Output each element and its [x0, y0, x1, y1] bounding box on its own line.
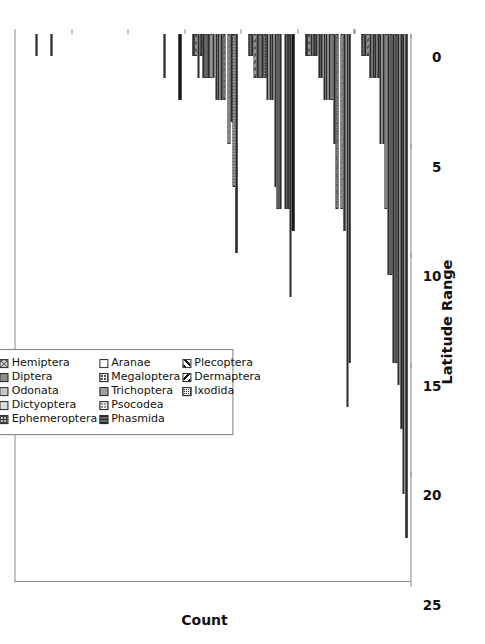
legend-label: Ephemeroptera	[11, 413, 97, 426]
bar	[369, 34, 371, 78]
bar	[289, 34, 291, 297]
legend-label: Dermaptera	[194, 371, 260, 384]
bar	[320, 34, 322, 78]
legend-item[interactable]: Phasmida	[99, 413, 180, 426]
legend-label: Psocodea	[111, 399, 163, 412]
bar	[276, 34, 278, 209]
bar	[394, 34, 396, 363]
bar	[382, 34, 384, 144]
bar	[335, 34, 337, 209]
legend-swatch-icon	[99, 373, 108, 382]
bar	[222, 34, 224, 100]
legend-swatch-icon	[99, 401, 108, 410]
bar	[325, 34, 327, 100]
bar	[315, 34, 317, 56]
bar	[35, 34, 37, 56]
legend-swatch-icon	[182, 359, 191, 368]
bar	[274, 34, 276, 187]
legend-swatch-icon	[0, 387, 8, 396]
bar	[384, 34, 386, 209]
legend-label: Diptera	[11, 371, 52, 384]
bar	[374, 34, 376, 78]
legend-swatch-icon	[182, 373, 191, 382]
count-tick-mark	[410, 472, 411, 477]
legend-item[interactable]: Ephemeroptera	[0, 413, 97, 426]
bar	[348, 34, 350, 363]
legend-label: Plecoptera	[194, 357, 253, 370]
y-axis-title: Count	[174, 612, 234, 628]
legend-swatch-icon	[0, 401, 8, 410]
bar	[305, 34, 307, 56]
legend-swatch-icon	[182, 387, 191, 396]
legend-item[interactable]: Plecoptera	[182, 357, 260, 370]
bar	[392, 34, 394, 363]
bar	[402, 34, 404, 494]
latitude-tick-mark	[71, 29, 72, 34]
bar	[323, 34, 325, 100]
bar	[312, 34, 314, 56]
count-tick-mark	[410, 363, 411, 368]
count-tick-mark	[410, 34, 411, 39]
chart-legend: ColeopteraOrtopteraHymenopteraLepidopter…	[0, 349, 233, 435]
legend-item[interactable]: Hemiptera	[0, 357, 97, 370]
legend-label: Hemiptera	[11, 357, 69, 370]
legend-item[interactable]: Trichoptera	[99, 385, 180, 398]
bar	[361, 34, 363, 56]
legend-label: Trichoptera	[111, 385, 173, 398]
count-tick-label: 0	[407, 49, 441, 65]
legend-item[interactable]: Ixodida	[182, 385, 260, 398]
bar	[291, 34, 293, 231]
bar	[197, 34, 199, 78]
bar	[232, 34, 234, 187]
bar	[307, 34, 309, 56]
legend-swatch-icon	[99, 387, 108, 396]
bar	[163, 34, 165, 78]
legend-item[interactable]: Megaloptera	[99, 371, 180, 384]
legend-item[interactable]: Diptera	[0, 371, 97, 384]
legend-label: Phasmida	[111, 413, 165, 426]
bar	[269, 34, 271, 100]
legend-grid: ColeopteraOrtopteraHymenopteraLepidopter…	[0, 357, 224, 426]
legend-label: Megaloptera	[111, 371, 180, 384]
bar	[248, 34, 250, 56]
bar	[192, 34, 194, 56]
count-tick-mark	[410, 144, 411, 149]
bar	[405, 34, 407, 538]
bar	[379, 34, 381, 144]
bar	[286, 34, 288, 209]
bar	[366, 34, 368, 56]
bar	[235, 34, 237, 253]
bar	[266, 34, 268, 100]
bar	[199, 34, 201, 56]
legend-swatch-icon	[0, 359, 8, 368]
latitude-tick-mark	[127, 29, 128, 34]
count-tick-label: 20	[407, 487, 441, 503]
bar	[372, 34, 374, 78]
bar	[263, 34, 265, 78]
latitude-tick-mark	[240, 29, 241, 34]
bar	[202, 34, 204, 78]
bar	[377, 34, 379, 78]
bar	[318, 34, 320, 78]
bar	[253, 34, 255, 78]
count-tick-label: 10	[407, 268, 441, 284]
count-tick-label: 5	[407, 159, 441, 175]
count-tick-mark	[410, 582, 411, 587]
legend-item[interactable]: Psocodea	[99, 399, 180, 412]
bar	[333, 34, 335, 144]
count-tick-label: 15	[407, 378, 441, 394]
legend-item[interactable]: Aranae	[99, 357, 180, 370]
bar	[217, 34, 219, 100]
bar	[194, 34, 196, 56]
bar	[261, 34, 263, 78]
legend-swatch-icon	[0, 415, 8, 424]
bar	[215, 34, 217, 100]
bar	[251, 34, 253, 56]
legend-item[interactable]: Dermaptera	[182, 371, 260, 384]
legend-item[interactable]: Odonata	[0, 385, 97, 398]
count-tick-label: 25	[407, 597, 441, 613]
bar	[400, 34, 402, 429]
bar	[389, 34, 391, 275]
legend-item[interactable]: Dictyoptera	[0, 399, 97, 412]
latitude-tick-mark	[297, 29, 298, 34]
